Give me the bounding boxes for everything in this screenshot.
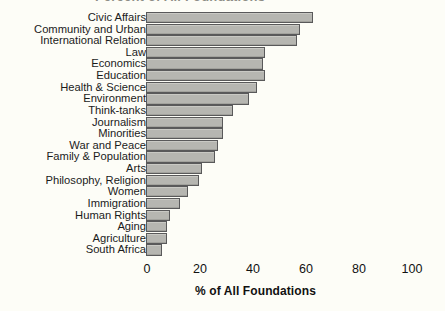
bar: [146, 163, 202, 174]
x-tick-label: 80: [329, 262, 389, 276]
bar: [146, 70, 265, 81]
category-label: War and Peace: [69, 139, 146, 151]
bar: [146, 47, 265, 58]
category-label: International Relation: [40, 34, 146, 46]
category-label: Family & Population: [47, 150, 147, 162]
bar-row: Minorities: [0, 128, 445, 140]
category-label: Law: [125, 46, 146, 58]
x-tick-label: 100: [382, 262, 442, 276]
chart-title-clipped: Percent of All Foundations: [0, 0, 445, 7]
x-tick-label: 0: [117, 262, 177, 276]
bar-row: International Relation: [0, 35, 445, 47]
category-label: Minorities: [98, 127, 146, 139]
bar: [146, 198, 180, 209]
category-label: Human Rights: [75, 209, 146, 221]
bar-row: Law: [0, 47, 445, 59]
bar: [146, 58, 263, 69]
bar-chart: Percent of All Foundations Civic Affairs…: [0, 0, 445, 311]
bar-row: Journalism: [0, 117, 445, 129]
bar-row: Environment: [0, 93, 445, 105]
bar-row: Aging: [0, 221, 445, 233]
category-label: Think-tanks: [88, 104, 146, 116]
category-label: Community and Urban: [34, 23, 146, 35]
bar: [146, 175, 199, 186]
bar: [146, 117, 223, 128]
bar: [146, 128, 223, 139]
bar: [146, 82, 257, 93]
category-label: Aging: [117, 220, 146, 232]
category-label: South Africa: [86, 243, 146, 255]
bar: [146, 35, 297, 46]
category-label: Economics: [91, 57, 146, 69]
bar: [146, 244, 162, 255]
x-axis-label: % of All Foundations: [0, 284, 445, 298]
bar: [146, 210, 170, 221]
x-tick-label: 40: [223, 262, 283, 276]
bar-row: South Africa: [0, 244, 445, 256]
bar: [146, 140, 218, 151]
bar: [146, 233, 167, 244]
x-tick-label: 60: [276, 262, 336, 276]
bar: [146, 12, 313, 23]
bar-row: Women: [0, 186, 445, 198]
bar: [146, 105, 233, 116]
bar: [146, 93, 249, 104]
bar: [146, 186, 188, 197]
bar-row: Immigration: [0, 198, 445, 210]
category-label: Civic Affairs: [88, 11, 146, 23]
category-label: Journalism: [92, 116, 146, 128]
category-label: Arts: [126, 162, 146, 174]
category-label: Women: [108, 185, 146, 197]
category-label: Environment: [83, 92, 146, 104]
category-label: Immigration: [88, 197, 146, 209]
bar-row: Agriculture: [0, 233, 445, 245]
category-label: Agriculture: [93, 232, 146, 244]
chart-title-text: Percent of All Foundations: [95, 0, 265, 4]
plot-area: Civic AffairsCommunity and UrbanInternat…: [0, 12, 445, 260]
bar: [146, 221, 167, 232]
x-axis-ticks: 020406080100: [0, 262, 445, 280]
bar-row: Think-tanks: [0, 105, 445, 117]
x-tick-label: 20: [170, 262, 230, 276]
bar-row: Human Rights: [0, 210, 445, 222]
category-label: Health & Science: [60, 81, 146, 93]
bar-row: Economics: [0, 58, 445, 70]
bar-row: Philosophy, Religion: [0, 175, 445, 187]
bar: [146, 24, 300, 35]
bar-row: Health & Science: [0, 82, 445, 94]
category-label: Education: [96, 69, 146, 81]
bar-row: Family & Population: [0, 151, 445, 163]
bar: [146, 151, 215, 162]
category-label: Philosophy, Religion: [45, 174, 146, 186]
